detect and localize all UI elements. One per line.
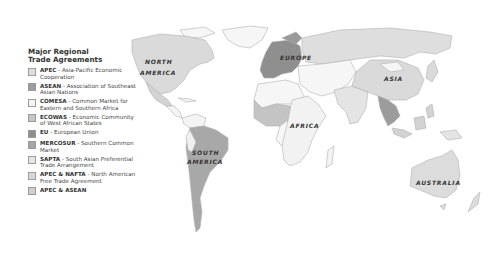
region-australia <box>410 150 460 198</box>
label-africa: AFRICA <box>289 122 319 129</box>
legend-item-apec-nafta: APEC & NAFTA - North American Free Trade… <box>28 171 138 184</box>
legend: Major Regional Trade Agreements APEC - A… <box>28 48 138 198</box>
legend-item-comesa: COMESA - Common Market for Eastern and S… <box>28 98 138 111</box>
region-sapta <box>334 86 368 124</box>
label-south-america-1: SOUTH <box>192 149 219 156</box>
region-russia <box>302 28 452 64</box>
swatch-eu <box>28 130 36 138</box>
greenland <box>222 26 268 48</box>
legend-title: Major Regional Trade Agreements <box>28 48 138 64</box>
legend-item-ecowas: ECOWAS - Economic Community of West Afri… <box>28 114 138 127</box>
legend-item-asean: ASEAN - Association of Southeast Asian N… <box>28 83 138 96</box>
legend-item-eu: EU - European Union <box>28 129 138 138</box>
region-south-america-north <box>182 114 206 128</box>
swatch-asean <box>28 83 36 91</box>
label-south-america-2: AMERICA <box>186 158 223 165</box>
label-europe: EUROPE <box>280 54 312 61</box>
legend-item-apec: APEC - Asia-Pacific Economic Cooperation <box>28 67 138 80</box>
label-asia: ASIA <box>383 75 403 82</box>
swatch-mercosur <box>28 141 36 149</box>
legend-title-line2: Trade Agreements <box>28 56 138 64</box>
swatch-apec <box>28 68 36 76</box>
swatch-comesa <box>28 99 36 107</box>
swatch-apec-nafta <box>28 172 36 180</box>
swatch-sapta <box>28 156 36 164</box>
legend-item-apec-asean: APEC & ASEAN <box>28 187 138 196</box>
legend-items: APEC - Asia-Pacific Economic Cooperation… <box>28 67 138 195</box>
label-north-america-2: AMERICA <box>139 69 176 76</box>
legend-item-mercosur: MERCOSUR - Southern Common Market <box>28 140 138 153</box>
swatch-apec-asean <box>28 187 36 195</box>
region-asean <box>378 96 400 126</box>
label-australia: AUSTRALIA <box>415 179 461 186</box>
legend-item-sapta: SAPTA - South Asian Preferential Trade A… <box>28 156 138 169</box>
swatch-ecowas <box>28 114 36 122</box>
label-north-america-1: NORTH <box>145 58 173 65</box>
